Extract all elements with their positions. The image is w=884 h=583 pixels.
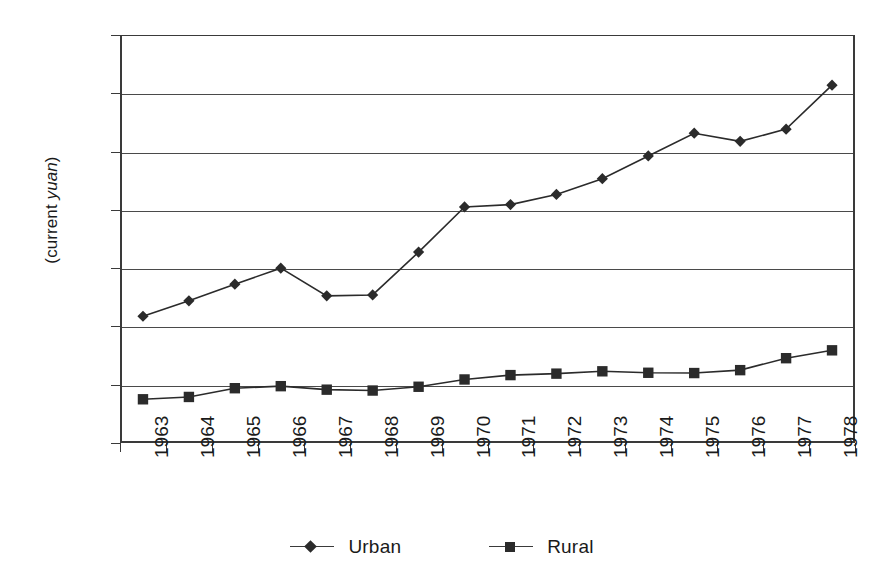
gridline <box>122 153 853 154</box>
y-axis-tick-mark <box>111 385 120 386</box>
diamond-marker-icon <box>290 539 334 555</box>
x-axis-tick-label: 1965 <box>243 388 265 458</box>
y-axis-tick-mark <box>111 35 120 36</box>
legend-label: Urban <box>348 536 401 558</box>
y-axis-tick-mark <box>111 210 120 211</box>
x-axis-tick-label: 1970 <box>473 388 495 458</box>
y-axis-title-tail: ) <box>42 156 61 162</box>
legend-label: Rural <box>547 536 593 558</box>
legend-item-rural[interactable]: Rural <box>489 536 593 558</box>
line-chart: (current yuan) 1400120010008006004002000… <box>0 0 884 583</box>
x-axis-tick-label: 1971 <box>518 388 540 458</box>
x-axis-tick-label: 1973 <box>610 388 632 458</box>
x-axis-tick-label: 1974 <box>656 388 678 458</box>
y-axis-title-italic: yuan <box>42 162 61 199</box>
x-axis-tick-mark <box>120 443 121 452</box>
x-axis-tick-label: 1975 <box>702 388 724 458</box>
x-axis-tick-label: 1978 <box>840 388 862 458</box>
y-axis-title: (current yuan) <box>42 90 62 330</box>
y-axis-tick-mark <box>111 152 120 153</box>
plot-area <box>120 35 855 443</box>
y-axis-tick-mark <box>111 93 120 94</box>
square-marker-icon <box>489 539 533 555</box>
y-axis-tick-mark <box>111 326 120 327</box>
legend-item-urban[interactable]: Urban <box>290 536 401 558</box>
x-axis-tick-label: 1968 <box>381 388 403 458</box>
gridline <box>122 327 853 328</box>
x-axis-tick-label: 1963 <box>151 388 173 458</box>
y-axis-title-plain: (current <box>42 199 61 263</box>
y-axis-tick-mark <box>111 443 120 444</box>
gridline <box>122 269 853 270</box>
x-axis-tick-label: 1969 <box>427 388 449 458</box>
gridline <box>122 94 853 95</box>
x-axis-tick-label: 1967 <box>335 388 357 458</box>
x-axis-tick-label: 1977 <box>794 388 816 458</box>
y-axis-tick-mark <box>111 268 120 269</box>
x-axis-tick-label: 1964 <box>197 388 219 458</box>
chart-legend: UrbanRural <box>0 536 884 558</box>
x-axis-tick-label: 1966 <box>289 388 311 458</box>
diamond-marker-icon <box>305 540 318 553</box>
x-axis-tick-label: 1976 <box>748 388 770 458</box>
gridline <box>122 211 853 212</box>
gridline <box>122 386 853 387</box>
square-marker-icon <box>505 542 515 552</box>
x-axis-tick-label: 1972 <box>564 388 586 458</box>
